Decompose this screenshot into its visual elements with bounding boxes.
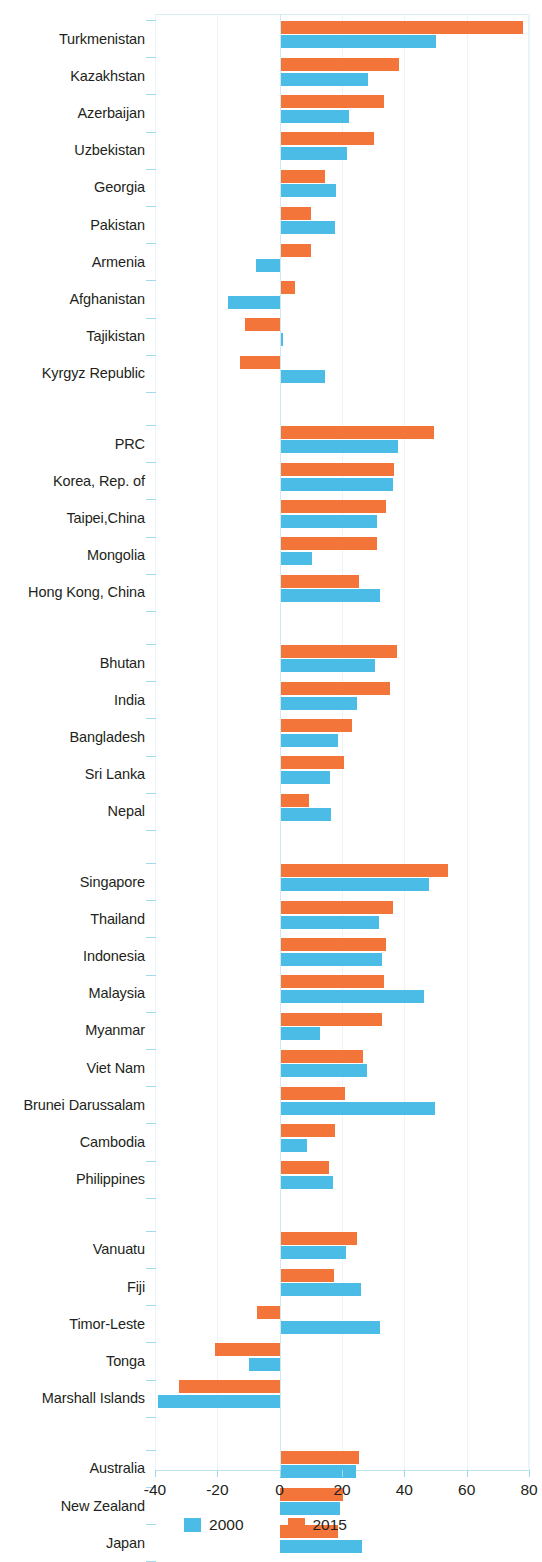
bar-2000: [256, 259, 279, 272]
category-label: Armenia: [92, 255, 145, 270]
y-axis-tick: [146, 1450, 156, 1451]
y-axis-tick: [146, 900, 156, 901]
category-label: Brunei Darussalam: [23, 1098, 145, 1113]
y-axis-tick: [146, 1417, 156, 1418]
category-label: Bhutan: [100, 656, 145, 671]
category-label: New Zealand: [61, 1499, 145, 1514]
bar-2000: [280, 1139, 308, 1152]
legend-item-2000[interactable]: 2000: [184, 1516, 243, 1534]
bar-2000: [280, 953, 382, 966]
category-label: Pakistan: [90, 218, 145, 233]
y-axis-tick: [146, 1198, 156, 1199]
bar-2000: [280, 1176, 333, 1189]
y-axis-tick: [146, 499, 156, 500]
y-axis-tick: [146, 863, 156, 864]
y-axis-tick: [146, 94, 156, 95]
x-axis-tick-label: 40: [374, 1481, 434, 1499]
x-axis-tick-label: -40: [125, 1481, 185, 1499]
chart-legend: 2000 2015: [0, 1516, 531, 1534]
category-label: Georgia: [94, 180, 145, 195]
bar-2000: [280, 370, 326, 383]
bar-2015: [245, 318, 279, 331]
category-label: Fiji: [127, 1280, 145, 1295]
legend-label-2000: 2000: [209, 1516, 243, 1534]
y-axis-tick: [146, 355, 156, 356]
gridline: [155, 14, 156, 1470]
bar-2000: [280, 73, 368, 86]
y-axis-tick: [146, 718, 156, 719]
category-label: Marshall Islands: [42, 1391, 145, 1406]
y-axis-tick: [146, 644, 156, 645]
gridline: [529, 14, 530, 1470]
category-label: Australia: [89, 1461, 145, 1476]
y-axis-tick: [146, 1086, 156, 1087]
bar-2015: [280, 975, 385, 988]
bar-2000: [280, 990, 425, 1003]
bar-2015: [280, 281, 295, 294]
category-label: Cambodia: [80, 1135, 145, 1150]
category-label: Mongolia: [87, 548, 145, 563]
bar-2000: [280, 552, 312, 565]
bar-2000: [280, 697, 358, 710]
category-label: Korea, Rep. of: [53, 474, 145, 489]
y-axis-tick: [146, 1305, 156, 1306]
y-axis-tick: [146, 169, 156, 170]
y-axis-tick: [146, 1342, 156, 1343]
gridline: [467, 14, 468, 1470]
bar-2015: [179, 1380, 279, 1393]
y-axis-tick: [146, 57, 156, 58]
bar-2000: [280, 110, 350, 123]
bar-2000: [280, 1283, 361, 1296]
legend-item-2015[interactable]: 2015: [288, 1516, 347, 1534]
bar-2015: [280, 719, 352, 732]
y-axis-tick: [146, 206, 156, 207]
bar-2015: [280, 1161, 329, 1174]
bar-2015: [280, 500, 386, 513]
legend-swatch-2000-icon: [184, 1518, 201, 1532]
category-label: Thailand: [90, 912, 145, 927]
x-axis-tick: [217, 1470, 218, 1477]
category-label: Singapore: [80, 875, 145, 890]
x-axis-tick-label: 80: [499, 1481, 542, 1499]
bar-2015: [280, 463, 395, 476]
x-axis-tick-label: -20: [187, 1481, 247, 1499]
y-axis-tick: [146, 611, 156, 612]
bar-2015: [280, 244, 311, 257]
bar-2015: [280, 1232, 357, 1245]
bar-2015: [280, 645, 397, 658]
bar-2000: [280, 1246, 346, 1259]
y-axis-tick: [146, 20, 156, 21]
category-label: Myanmar: [85, 1023, 145, 1038]
bar-2015: [280, 864, 449, 877]
x-axis-tick: [404, 1470, 405, 1477]
y-axis-tick: [146, 1123, 156, 1124]
category-label: Philippines: [76, 1172, 145, 1187]
plot-area: [155, 14, 529, 1470]
bar-2015: [280, 938, 386, 951]
y-axis-tick: [146, 1049, 156, 1050]
y-axis-tick: [146, 132, 156, 133]
bar-2000: [280, 659, 376, 672]
y-axis-tick: [146, 243, 156, 244]
bar-2000: [280, 1465, 356, 1478]
bar-2015: [280, 756, 345, 769]
bar-2000: [280, 478, 393, 491]
category-label: Tonga: [106, 1354, 145, 1369]
bar-2000: [280, 147, 348, 160]
category-label: Japan: [106, 1536, 145, 1551]
bar-2015: [280, 1124, 335, 1137]
bar-2015: [280, 132, 374, 145]
legend-label-2015: 2015: [313, 1516, 347, 1534]
bar-2000: [228, 296, 280, 309]
bar-2000: [280, 184, 336, 197]
y-axis-tick: [146, 574, 156, 575]
category-label: India: [114, 693, 145, 708]
bar-2000: [280, 1502, 341, 1515]
bar-2000: [280, 515, 377, 528]
category-label: Timor-Leste: [69, 1317, 145, 1332]
zero-line: [280, 14, 281, 1470]
bar-2000: [280, 1027, 320, 1040]
bar-2015: [280, 1087, 345, 1100]
bar-2015: [280, 537, 377, 550]
